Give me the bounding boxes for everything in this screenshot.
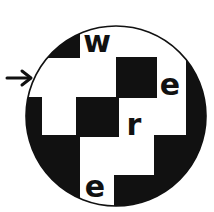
maze-puzzle: w e r e (0, 0, 214, 212)
maze-wall-right (114, 0, 214, 212)
letter-w: w (83, 24, 111, 59)
letter-e-top: e (160, 67, 180, 102)
arrow-right-icon (7, 71, 31, 85)
maze-wall-top-left (0, 0, 80, 58)
letter-e-bottom: e (85, 169, 105, 204)
maze-wall-left (0, 97, 80, 212)
letter-r: r (127, 107, 142, 142)
maze-wall-square-middle (76, 97, 119, 137)
maze-wall-square-top-right (116, 57, 157, 98)
